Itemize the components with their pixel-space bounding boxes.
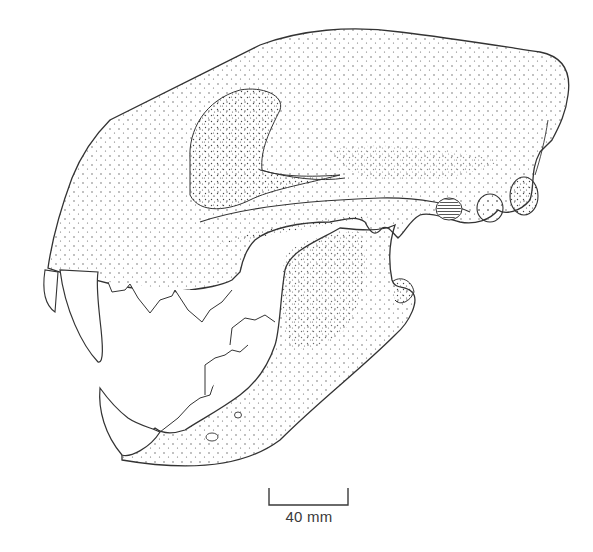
skull-figure: 40 mm bbox=[0, 0, 593, 552]
scale-bar bbox=[269, 488, 348, 505]
skull-drawing bbox=[0, 0, 593, 552]
upper-canine bbox=[44, 270, 102, 362]
scale-bar-label: 40 mm bbox=[268, 508, 350, 525]
